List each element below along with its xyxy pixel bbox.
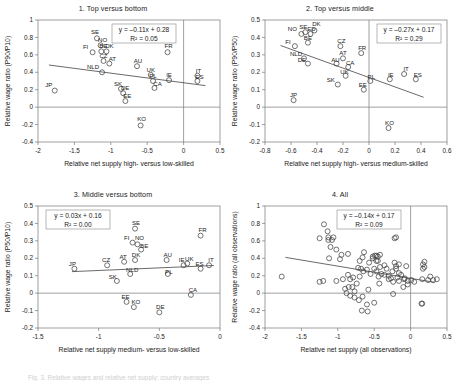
data-point (361, 87, 366, 92)
x-axis-tick-label: 0.5 (443, 333, 452, 340)
data-point (367, 260, 372, 265)
data-point-label: DE (121, 84, 129, 91)
y-axis-tick-label: 0.5 (24, 202, 33, 209)
data-point-label: DK (132, 251, 140, 258)
y-axis-tick-label: 1 (29, 16, 33, 23)
data-point (420, 277, 425, 282)
data-point (359, 308, 364, 313)
data-point (101, 58, 106, 63)
x-axis-tick-label: -2 (35, 147, 41, 154)
data-point-label: EE (122, 293, 130, 300)
data-point (366, 287, 371, 292)
panel-3-plot: -1.5-1-0.50-0.2-0.100.10.20.30.40.5Relat… (0, 190, 226, 372)
y-axis-tick-label: 0 (256, 103, 260, 110)
y-axis-tick-label: -0.2 (249, 138, 260, 145)
data-point (357, 258, 362, 263)
data-point (354, 281, 359, 286)
x-axis-tick-label: -1 (108, 147, 114, 154)
data-point (198, 266, 203, 271)
data-point-label: FR (199, 226, 208, 233)
x-axis-tick-label: 0.5 (216, 147, 225, 154)
data-point (165, 50, 170, 55)
data-point (345, 251, 350, 256)
data-point-label: ES (195, 73, 203, 80)
data-point-label: PL (165, 268, 173, 275)
x-axis-tick-label: -0.5 (369, 333, 380, 340)
data-point-label: BE (304, 34, 312, 41)
data-point (391, 292, 396, 297)
x-axis-tick-label: 0.6 (443, 147, 452, 154)
r-squared-label: R² = 0.05 (130, 35, 158, 42)
y-axis-tick-label: 1 (256, 202, 260, 209)
data-point-label: AU (163, 251, 171, 258)
data-point-label: DK (105, 42, 113, 49)
data-point-label: FI (83, 43, 89, 50)
y-axis-tick-label: -0.4 (249, 324, 260, 331)
y-axis-tick-label: 0.4 (251, 34, 260, 41)
data-point-label: SK (109, 273, 117, 280)
y-axis-tick-label: 0 (29, 289, 33, 296)
panel-3-middle-versus-bottom: 3. Middle versus bottom -1.5-1-0.50-0.2-… (0, 190, 226, 372)
y-axis-tick-label: 0 (256, 289, 260, 296)
panel-4-all: 4. All -2-1.5-1-0.500.5-0.4-0.200.20.40.… (227, 190, 453, 372)
y-axis-tick-label: 0.8 (24, 34, 33, 41)
data-point-label: AT (119, 253, 127, 260)
data-point (327, 256, 332, 261)
y-axis-tick-label: 0.3 (251, 51, 260, 58)
data-point (372, 300, 377, 305)
data-point (279, 274, 284, 279)
data-point (401, 285, 406, 290)
data-point (133, 258, 138, 263)
x-axis-title: Relative net supply medium- versus low-s… (59, 346, 200, 354)
y-axis-tick-label: -0.1 (22, 307, 33, 314)
data-point (292, 44, 297, 49)
regression-line (49, 65, 206, 86)
x-axis-tick-label: -1 (96, 333, 102, 340)
y-axis-title: Relative wage ratio (all observations) (231, 211, 239, 322)
data-point (90, 50, 95, 55)
y-axis-tick-label: 0.2 (24, 254, 33, 261)
figure-caption: Fig. 3. Relative wages and relative net … (28, 374, 448, 381)
y-axis-tick-label: 0.5 (251, 16, 260, 23)
data-point-label: SE (91, 28, 99, 35)
data-point-label: NO (135, 234, 144, 241)
x-axis-tick-label: -0.6 (285, 147, 296, 154)
data-point (338, 44, 343, 49)
data-point-label: IT (403, 65, 409, 72)
y-axis-tick-label: 0.3 (24, 237, 33, 244)
data-point (321, 222, 326, 227)
data-point (359, 51, 364, 56)
y-axis-tick-label: 0.6 (251, 237, 260, 244)
data-point (321, 278, 326, 283)
data-point (334, 278, 339, 283)
data-point (305, 40, 310, 45)
y-axis-tick-label: 0.2 (251, 68, 260, 75)
data-point (164, 258, 169, 263)
regression-equation: y = –0.27x + 0.17 (384, 26, 435, 34)
x-axis-tick-label: -0.4 (311, 147, 322, 154)
data-point (122, 259, 127, 264)
data-point-label: AT (109, 55, 117, 62)
regression-equation: y = 0.03x + 0.16 (54, 212, 102, 220)
data-point-label: JP (45, 81, 52, 88)
y-axis-tick-label: -0.2 (22, 324, 33, 331)
data-point (72, 266, 77, 271)
panel-2-top-versus-middle: 2. Top versus middle -0.8-0.6-0.4-0.200.… (227, 4, 453, 186)
y-axis-tick-label: 0.1 (24, 272, 33, 279)
y-axis-tick-label: -0.2 (22, 121, 33, 128)
y-axis-tick-label: 0.6 (24, 51, 33, 58)
r-squared-label: R² = 0.09 (355, 221, 383, 228)
data-point-label: NLD (87, 63, 100, 70)
x-axis-tick-label: -1 (335, 333, 341, 340)
data-point (131, 305, 136, 310)
data-point-label: CA (189, 286, 198, 293)
data-point (157, 310, 162, 315)
data-point (377, 281, 382, 286)
y-axis-tick-label: 0.8 (251, 220, 260, 227)
data-point-label: SE (299, 23, 307, 30)
data-point (334, 247, 339, 252)
data-point (305, 61, 310, 66)
data-point-label: UK (185, 255, 193, 262)
panel-2-title: 2. Top versus middle (227, 4, 453, 13)
data-point (138, 123, 143, 128)
